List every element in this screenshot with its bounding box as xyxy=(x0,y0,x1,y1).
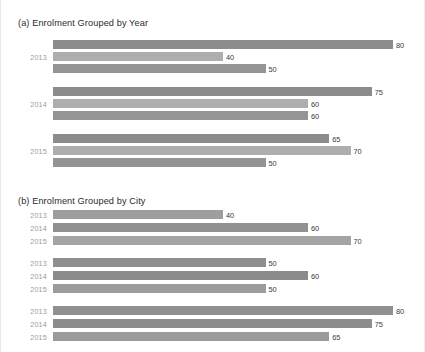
chart-a-plot-area: 201380405020147560602015657050 xyxy=(1,40,425,181)
row-axis-label: 2015 xyxy=(1,284,47,293)
bar-group: 201350201460201550 xyxy=(1,258,425,293)
chart-b-title: (b) Enrolment Grouped by City xyxy=(18,196,146,206)
bar[interactable] xyxy=(53,134,329,143)
bar[interactable] xyxy=(53,87,372,96)
bar[interactable] xyxy=(53,258,266,267)
bar-value-label: 50 xyxy=(266,284,277,293)
row-axis-label: 2013 xyxy=(1,306,47,315)
bar-value-label: 60 xyxy=(308,271,319,280)
bar-value-label: 40 xyxy=(223,52,234,61)
chart-a-enrolment-by-year: (a) Enrolment Grouped by Year 2013804050… xyxy=(1,0,425,178)
row-axis-label: 2013 xyxy=(1,258,47,267)
bar-value-label: 40 xyxy=(223,210,234,219)
bar-value-label: 50 xyxy=(266,64,277,73)
bar-row: 201380 xyxy=(1,306,425,315)
row-axis-label: 2014 xyxy=(1,319,47,328)
bar-row: 60 xyxy=(1,99,425,108)
bar[interactable] xyxy=(53,158,266,167)
bar[interactable] xyxy=(53,332,329,341)
row-axis-label: 2014 xyxy=(1,223,47,232)
bar-group: 2013804050 xyxy=(1,40,425,73)
bar[interactable] xyxy=(53,146,351,155)
bar-row: 80 xyxy=(1,40,425,49)
bar-row: 201350 xyxy=(1,258,425,267)
bar[interactable] xyxy=(53,223,308,232)
bar[interactable] xyxy=(53,210,223,219)
row-axis-label: 2015 xyxy=(1,236,47,245)
bar[interactable] xyxy=(53,271,308,280)
bar-value-label: 65 xyxy=(329,332,340,341)
bar-row: 50 xyxy=(1,64,425,73)
bar[interactable] xyxy=(53,40,393,49)
bar-value-label: 70 xyxy=(351,146,362,155)
bar-row: 201550 xyxy=(1,284,425,293)
bar-group: 2015657050 xyxy=(1,134,425,167)
row-axis-label: 2014 xyxy=(1,271,47,280)
bar-row: 201460 xyxy=(1,271,425,280)
bar-value-label: 60 xyxy=(308,223,319,232)
bar-group: 2014756060 xyxy=(1,87,425,120)
bar-row: 40 xyxy=(1,52,425,61)
bar-row: 70 xyxy=(1,146,425,155)
bar-value-label: 60 xyxy=(308,99,319,108)
bar[interactable] xyxy=(53,111,308,120)
bar-value-label: 50 xyxy=(266,258,277,267)
row-axis-label: 2015 xyxy=(1,332,47,341)
row-axis-label: 2013 xyxy=(1,210,47,219)
bar-row: 65 xyxy=(1,134,425,143)
bar-row: 50 xyxy=(1,158,425,167)
bar-row: 201460 xyxy=(1,223,425,232)
bar[interactable] xyxy=(53,319,372,328)
bar[interactable] xyxy=(53,99,308,108)
bar-value-label: 70 xyxy=(351,236,362,245)
bar-row: 201565 xyxy=(1,332,425,341)
chart-b-enrolment-by-city: (b) Enrolment Grouped by City 2013402014… xyxy=(1,178,425,352)
bar[interactable] xyxy=(53,64,266,73)
bar-group: 201380201475201565 xyxy=(1,306,425,341)
bar-value-label: 50 xyxy=(266,158,277,167)
bar-row: 201475 xyxy=(1,319,425,328)
bar-row: 201570 xyxy=(1,236,425,245)
bar[interactable] xyxy=(53,236,351,245)
bar-row: 75 xyxy=(1,87,425,96)
bar-group: 201340201460201570 xyxy=(1,210,425,245)
bar-value-label: 80 xyxy=(393,40,404,49)
bar-row: 60 xyxy=(1,111,425,120)
bar-value-label: 75 xyxy=(372,87,383,96)
bar-row: 201340 xyxy=(1,210,425,219)
chart-b-plot-area: 2013402014602015702013502014602015502013… xyxy=(1,210,425,352)
bar[interactable] xyxy=(53,284,266,293)
bar[interactable] xyxy=(53,52,223,61)
bar-value-label: 60 xyxy=(308,111,319,120)
bar-value-label: 75 xyxy=(372,319,383,328)
bar-value-label: 65 xyxy=(329,134,340,143)
bar[interactable] xyxy=(53,306,393,315)
bar-value-label: 80 xyxy=(393,306,404,315)
figure-page: (a) Enrolment Grouped by Year 2013804050… xyxy=(0,0,425,352)
chart-a-title: (a) Enrolment Grouped by Year xyxy=(18,18,148,28)
